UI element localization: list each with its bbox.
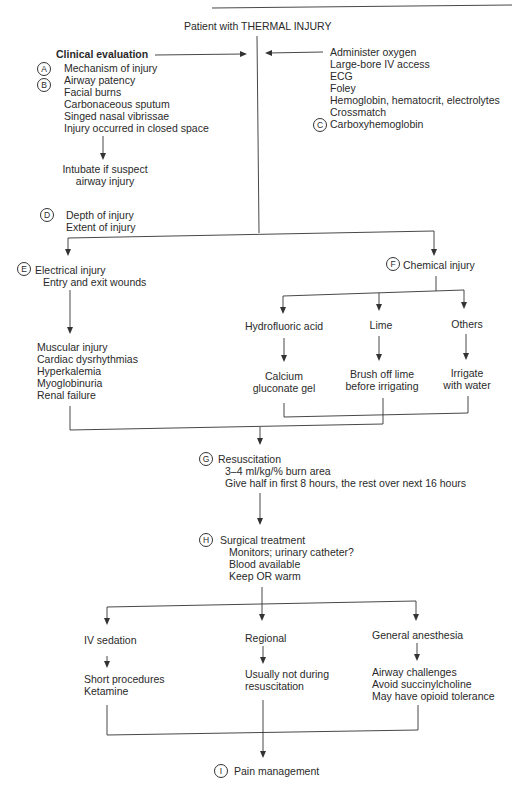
arrowhead (100, 153, 106, 160)
spine-line (257, 36, 259, 233)
anesthesia-note: May have opioid tolerance (372, 690, 495, 702)
clinical-item: Singed nasal vibrissae (64, 110, 169, 122)
anesthesia-option: General anesthesia (372, 629, 463, 641)
surgical-item: Monitors; urinary catheter? (229, 546, 354, 558)
arrowhead (257, 438, 263, 445)
clinical-evaluation-title: Clinical evaluation (56, 48, 148, 60)
arrowhead (265, 50, 272, 56)
resuscitation-item: 3–4 ml/kg/% burn area (225, 465, 331, 477)
chemical-treatment: Brush off lime (332, 368, 432, 380)
marker-h: H (199, 533, 213, 547)
anesthesia-note: Airway challenges (372, 666, 457, 678)
chemical-treatment: with water (432, 379, 502, 391)
anesthesia-merge (107, 705, 418, 735)
arrowhead (463, 353, 469, 360)
surgical-item: Keep OR warm (229, 570, 301, 582)
arrowhead (280, 307, 286, 314)
arrowhead (413, 614, 419, 621)
arrowhead (67, 327, 73, 334)
clinical-item: Carbonaceous sputum (64, 98, 170, 110)
intubate-line: airway injury (55, 175, 155, 187)
anesthesia-option: Regional (245, 632, 286, 644)
marker-b: B (37, 78, 51, 92)
anesthesia-option: IV sedation (84, 634, 137, 646)
arrowhead (260, 751, 266, 758)
header-rule (212, 5, 512, 8)
split-electrical-chemical (68, 231, 434, 252)
arrowhead (376, 354, 382, 361)
assessment-item: Extent of injury (66, 221, 135, 233)
assessment-item: Depth of injury (66, 209, 134, 221)
chemical-treatment: Calcium (234, 370, 334, 382)
electrical-complication: Muscular injury (37, 341, 108, 353)
electrical-complication: Renal failure (37, 389, 96, 401)
marker-e: E (17, 262, 31, 276)
management-item: ECG (330, 70, 353, 82)
arrowhead (240, 51, 247, 57)
chemical-treatment: before irrigating (332, 380, 432, 392)
arrowhead (414, 654, 420, 661)
arrowhead (281, 355, 287, 362)
arrowhead (65, 249, 71, 256)
chemical-agent: Lime (346, 319, 416, 331)
chemical-treatment: Irrigate (432, 367, 502, 379)
chemical-treatment: gluconate gel (234, 382, 334, 394)
chemical-agent: Others (432, 318, 502, 330)
arrowhead (376, 304, 382, 311)
marker-a: A (37, 62, 51, 76)
surgical-item: Blood available (229, 558, 300, 570)
electrical-chemical-merge (70, 398, 383, 430)
arrowhead (104, 661, 110, 668)
marker-i: I (214, 764, 228, 778)
anesthesia-note: Usually not during (245, 668, 329, 680)
arrowhead (431, 249, 437, 256)
start-node: Patient with THERMAL INJURY (184, 20, 331, 32)
clinical-item: Injury occurred in closed space (64, 122, 209, 134)
clinical-item: Mechanism of injury (64, 62, 157, 74)
electrical-complication: Cardiac dysrhythmias (37, 353, 138, 365)
management-item: Administer oxygen (330, 46, 416, 58)
clinical-eval-connector (155, 54, 244, 55)
management-item: Crossmatch (330, 106, 386, 118)
management-item: Carboxyhemoglobin (330, 118, 423, 130)
electrical-subtitle: Entry and exit wounds (43, 276, 146, 288)
marker-c: C (313, 118, 327, 132)
clinical-item: Airway patency (64, 74, 135, 86)
electrical-title: Electrical injury (35, 264, 106, 276)
pain-management: Pain management (234, 765, 319, 777)
resuscitation-title: Resuscitation (218, 453, 281, 465)
arrowhead (257, 518, 263, 525)
clinical-item: Facial burns (64, 86, 121, 98)
treatments-merge (284, 396, 468, 417)
anesthesia-note: resuscitation (245, 680, 304, 692)
chemical-agent: Hydrofluoric acid (234, 320, 334, 332)
admin-connector (268, 52, 323, 53)
anesthesia-note: Ketamine (84, 685, 128, 697)
intubate-line: Intubate if suspect (55, 163, 155, 175)
arrowhead (260, 657, 266, 664)
anesthesia-note: Short procedures (84, 673, 165, 685)
electrical-complication: Hyperkalemia (37, 365, 101, 377)
management-item: Hemoglobin, hematocrit, electrolytes (330, 94, 500, 106)
anesthesia-note: Avoid succinylcholine (372, 678, 472, 690)
marker-g: G (199, 452, 213, 466)
arrowhead (461, 302, 467, 309)
surgical-title: Surgical treatment (220, 534, 305, 546)
marker-d: D (40, 208, 54, 222)
marker-f: F (386, 257, 400, 271)
management-item: Foley (330, 82, 356, 94)
management-item: Large-bore IV access (330, 58, 430, 70)
resuscitation-item: Give half in first 8 hours, the rest ove… (225, 477, 466, 489)
chemical-split (283, 290, 464, 311)
chemical-title: Chemical injury (403, 259, 475, 271)
arrowhead (259, 614, 265, 621)
electrical-complication: Myoglobinuria (37, 377, 102, 389)
arrowhead (104, 618, 110, 625)
